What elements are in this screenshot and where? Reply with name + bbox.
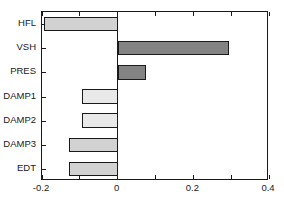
- bar-vsh: [118, 41, 230, 55]
- x-tick-label-0p4: 0.4: [261, 183, 274, 193]
- bar-hfl: [44, 17, 118, 31]
- x-tick-minor: [155, 12, 156, 16]
- x-tick-major-neg0p2: [42, 175, 43, 179]
- x-tick-major-0p4: [269, 175, 270, 179]
- x-tick-label-0: 0: [114, 183, 119, 193]
- y-tick-label-damp1: DAMP1: [3, 91, 36, 101]
- y-tick-label-edt: EDT: [17, 163, 36, 173]
- zero-baseline: [117, 12, 118, 179]
- x-tick-minor: [231, 175, 232, 179]
- x-tick-major-0p2: [193, 175, 194, 179]
- y-tick-label-pres: PRES: [10, 67, 36, 77]
- y-tick-damp3: [42, 145, 46, 146]
- y-tick-damp2: [42, 121, 46, 122]
- y-tick-label-vsh: VSH: [16, 42, 36, 52]
- bar-edt: [69, 162, 117, 176]
- bar-damp3: [69, 138, 117, 152]
- bar-pres: [118, 65, 146, 79]
- x-axis-tick-labels: -0.200.20.4: [41, 183, 268, 201]
- bar-damp2: [82, 113, 118, 127]
- x-tick-minor: [231, 12, 232, 16]
- plot-area: [41, 11, 268, 180]
- bar-damp1: [82, 89, 118, 103]
- x-tick-label-neg0p2: -0.2: [33, 183, 49, 193]
- y-tick-label-hfl: HFL: [18, 18, 36, 28]
- x-tick-minor: [155, 175, 156, 179]
- y-axis-tick-labels: HFLVSHPRESDAMP1DAMP2DAMP3EDT: [0, 11, 36, 180]
- y-tick-edt: [42, 169, 46, 170]
- x-tick-major-neg0p2: [42, 12, 43, 16]
- x-tick-minor: [79, 12, 80, 16]
- x-tick-label-0p2: 0.2: [186, 183, 199, 193]
- x-tick-major-0p4: [269, 12, 270, 16]
- x-tick-major-0p2: [193, 12, 194, 16]
- y-tick-label-damp3: DAMP3: [3, 139, 36, 149]
- bar-chart: HFLVSHPRESDAMP1DAMP2DAMP3EDT -0.200.20.4: [0, 0, 284, 210]
- y-tick-label-damp2: DAMP2: [3, 115, 36, 125]
- y-tick-pres: [42, 72, 46, 73]
- y-tick-damp1: [42, 97, 46, 98]
- y-tick-vsh: [42, 48, 46, 49]
